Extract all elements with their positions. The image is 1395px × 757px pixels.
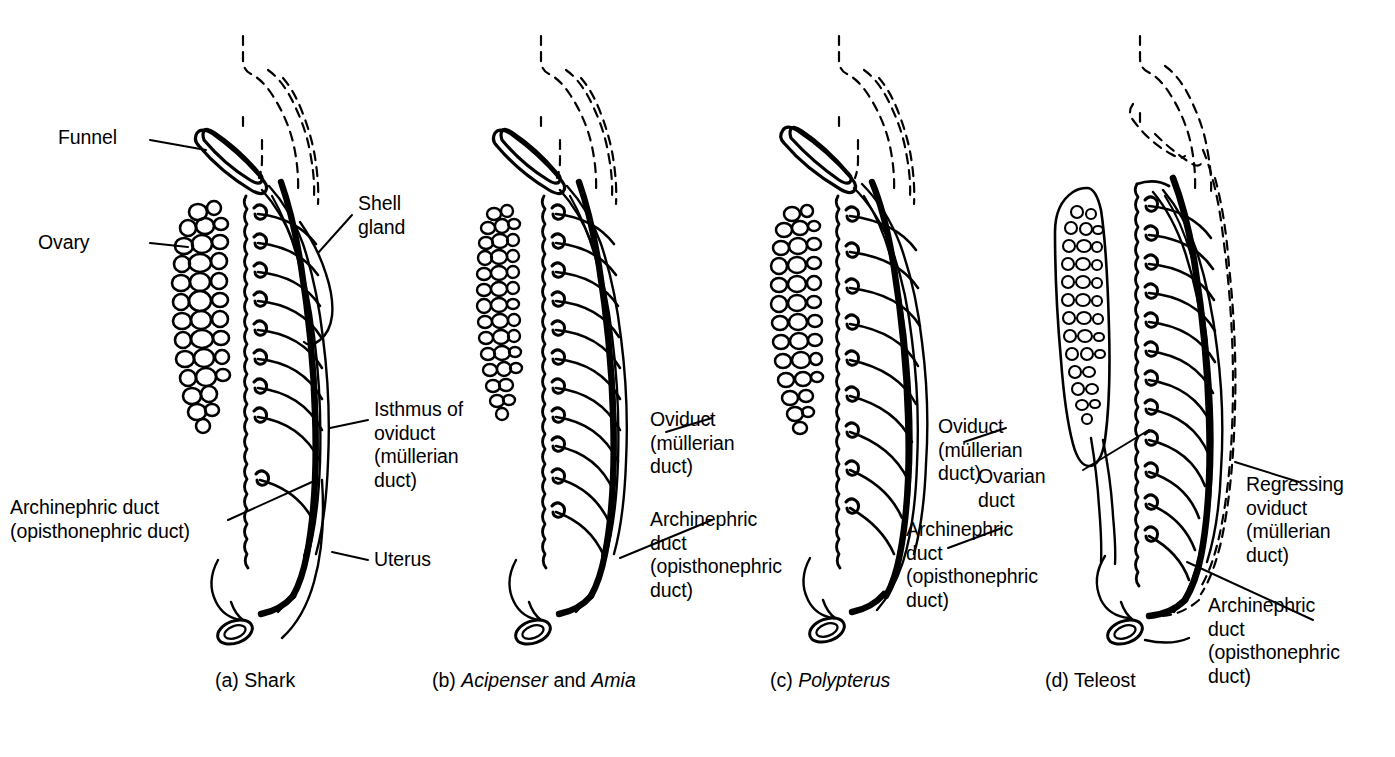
label-regressing-oviduct-d: Regressing oviduct (müllerian duct) bbox=[1246, 473, 1344, 567]
ovary-a bbox=[172, 201, 230, 433]
caption-panel-d: (d) Teleost bbox=[1045, 669, 1136, 692]
caption-c-genus-polypterus: Polypterus bbox=[798, 669, 890, 691]
label-ovarian-duct-d: Ovarian duct bbox=[978, 465, 1046, 512]
label-archinephric-duct-c: Archinephric duct (opisthonephric duct) bbox=[906, 518, 1038, 612]
caption-b-conjunction: and bbox=[548, 669, 591, 691]
label-funnel-a: Funnel bbox=[58, 126, 117, 150]
caption-b-genus-amia: Amia bbox=[591, 669, 635, 691]
label-isthmus-of-oviduct-a: Isthmus of oviduct (müllerian duct) bbox=[374, 398, 463, 492]
ovary-b bbox=[477, 205, 522, 420]
label-ovary-a: Ovary bbox=[38, 231, 90, 255]
label-archinephric-duct-b: Archinephric duct (opisthonephric duct) bbox=[650, 508, 782, 602]
caption-c-prefix: (c) bbox=[770, 669, 798, 691]
label-oviduct-b: Oviduct (müllerian duct) bbox=[650, 408, 735, 479]
label-uterus-a: Uterus bbox=[374, 548, 431, 572]
ovary-c bbox=[771, 205, 823, 434]
ovary-d bbox=[1055, 188, 1115, 564]
label-shell-gland-a: Shell gland bbox=[358, 192, 405, 239]
caption-panel-a: (a) Shark bbox=[215, 669, 295, 692]
panel-a-shark-drawing bbox=[150, 36, 368, 648]
figure-root: Funnel Ovary Shell gland Isthmus of ovid… bbox=[0, 0, 1395, 757]
caption-b-prefix: (b) bbox=[432, 669, 461, 691]
label-archinephric-duct-d: Archinephric duct (opisthonephric duct) bbox=[1208, 594, 1340, 688]
caption-b-genus-acipenser: Acipenser bbox=[461, 669, 548, 691]
anatomy-illustration bbox=[0, 0, 1395, 757]
label-archinephric-duct-a: Archinephric duct (opisthonephric duct) bbox=[10, 496, 190, 543]
caption-panel-b: (b) Acipenser and Amia bbox=[432, 669, 636, 692]
caption-panel-c: (c) Polypterus bbox=[770, 669, 890, 692]
